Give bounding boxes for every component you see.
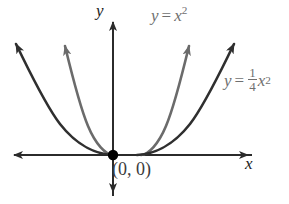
curve-label-y-equals-x-squared: y=x2 [151, 5, 187, 24]
curve-label-y-equals-quarter-x-squared: y=14x2 [224, 67, 271, 95]
fraction-one-quarter: 14 [248, 66, 257, 94]
fraction-numerator: 1 [248, 66, 257, 79]
x-axis-label: x [245, 155, 253, 172]
origin-coordinate-label: (0, 0) [112, 160, 151, 178]
curve-y-equals-quarter-x-squared-left [16, 44, 113, 155]
y-axis-label: y [96, 2, 104, 19]
label-x-variable: x [258, 72, 266, 89]
label-y-variable: y [151, 6, 159, 25]
label-y-variable: y [224, 72, 232, 89]
fraction-denominator: 4 [248, 79, 257, 93]
label-equals-sign: = [235, 72, 245, 89]
label-exponent: 2 [265, 75, 271, 86]
parabola-comparison-figure: y=x2 y=14x2 y x (0, 0) [0, 0, 289, 204]
label-x-variable: x [174, 6, 182, 25]
label-exponent: 2 [182, 4, 188, 16]
curve-y-equals-x-squared-right [141, 46, 189, 155]
label-equals-sign: = [162, 6, 172, 25]
